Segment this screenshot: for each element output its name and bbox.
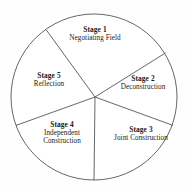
sector-stage-number-5: Stage 5 bbox=[14, 72, 84, 80]
sector-stage-name-3: Joint Construction bbox=[98, 134, 184, 142]
cycle-diagram: Stage 1 Negotiating Field Stage 2 Decons… bbox=[0, 0, 190, 193]
sector-name-line: Negotiating Field bbox=[52, 34, 138, 42]
sector-name-line: Deconstruction bbox=[104, 83, 182, 91]
sector-stage-name-2: Deconstruction bbox=[104, 83, 182, 91]
sector-label-stage-2: Stage 2 Deconstruction bbox=[104, 75, 182, 91]
sector-stage-number-1: Stage 1 bbox=[52, 26, 138, 34]
sector-label-stage-1: Stage 1 Negotiating Field bbox=[52, 26, 138, 42]
sector-name-line: Joint Construction bbox=[98, 134, 184, 142]
sector-stage-number-3: Stage 3 bbox=[98, 126, 184, 134]
sector-stage-number-4: Stage 4 bbox=[24, 121, 100, 129]
sector-label-stage-4: Stage 4 Independent Construction bbox=[24, 121, 100, 145]
sector-label-stage-5: Stage 5 Reflection bbox=[14, 72, 84, 88]
sector-stage-name-5: Reflection bbox=[14, 80, 84, 88]
sector-name-line: Reflection bbox=[14, 80, 84, 88]
sector-name-line: Independent bbox=[24, 129, 100, 137]
sector-label-stage-3: Stage 3 Joint Construction bbox=[98, 126, 184, 142]
sector-stage-name-4: Independent Construction bbox=[24, 129, 100, 145]
sector-stage-number-2: Stage 2 bbox=[104, 75, 182, 83]
sector-stage-name-1: Negotiating Field bbox=[52, 34, 138, 42]
sector-name-line: Construction bbox=[24, 137, 100, 145]
